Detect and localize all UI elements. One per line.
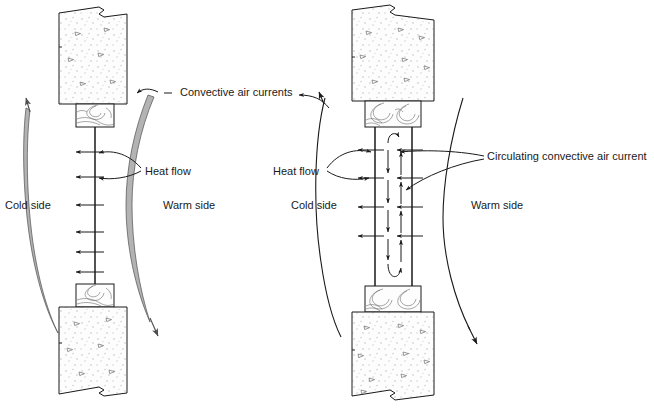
label-warm-side-left: Warm side bbox=[163, 199, 215, 211]
concrete-slab-bottom-right bbox=[352, 312, 434, 400]
label-warm-side-right: Warm side bbox=[471, 199, 523, 211]
concrete-slab-top-left bbox=[59, 7, 127, 104]
wall-heat-flow-diagram: Convective air currents Heat flow Cold s… bbox=[0, 0, 654, 416]
panel-solid-wall: Convective air currents Heat flow Cold s… bbox=[5, 7, 329, 396]
label-circulating-convective-air-current: Circulating convective air current bbox=[487, 150, 647, 162]
concrete-slab-top-right bbox=[352, 5, 434, 101]
label-heat-flow-right: Heat flow bbox=[273, 165, 319, 177]
panel-cavity-wall: Heat flow Circulating convective air cur… bbox=[273, 5, 647, 400]
cavity-circulating-air bbox=[388, 134, 401, 277]
heat-flow-arrows-right-panel bbox=[358, 150, 423, 236]
convective-line-warm-right bbox=[443, 98, 477, 344]
label-cold-side-right: Cold side bbox=[291, 199, 337, 211]
convective-ribbon-warm-left bbox=[126, 95, 158, 336]
leader-heat-flow-right bbox=[327, 151, 371, 180]
wood-plate-bottom-right bbox=[365, 286, 421, 312]
label-convective-air-currents: Convective air currents bbox=[180, 86, 293, 98]
convective-line-cold-right bbox=[316, 92, 341, 337]
convective-ribbon-cold-left bbox=[24, 98, 58, 333]
label-heat-flow-left: Heat flow bbox=[145, 165, 191, 177]
heat-flow-arrows-left-panel bbox=[76, 152, 104, 272]
label-cold-side-left: Cold side bbox=[5, 199, 51, 211]
diagram-canvas: Convective air currents Heat flow Cold s… bbox=[0, 0, 654, 416]
concrete-slab-bottom-left bbox=[59, 307, 127, 396]
wood-plate-top-left bbox=[76, 104, 114, 127]
wood-plate-top-right bbox=[365, 101, 421, 127]
wood-plate-bottom-left bbox=[76, 284, 114, 307]
